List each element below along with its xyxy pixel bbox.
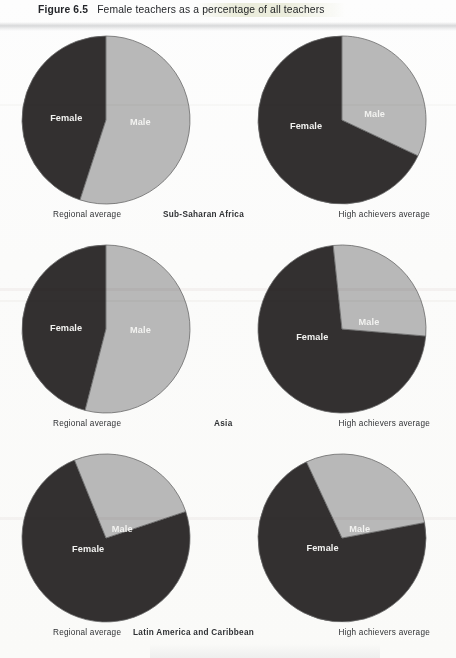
svg-text:Male: Male <box>349 524 370 534</box>
pie-chart-regional-average-0[interactable]: FemaleMale <box>14 34 194 206</box>
caption-high-achievers-average-1: High achievers average <box>338 419 430 428</box>
chart-row-latin-america-and-caribbean: FemaleMale FemaleMale Regional average L… <box>0 448 456 657</box>
svg-text:Male: Male <box>359 317 380 327</box>
svg-text:Female: Female <box>50 323 82 333</box>
svg-text:Female: Female <box>72 544 104 554</box>
svg-text:Male: Male <box>130 117 151 127</box>
svg-text:Female: Female <box>296 332 328 342</box>
caption-regional-average-0: Regional average <box>53 210 121 219</box>
chart-row-sub-saharan-africa: FemaleMale FemaleMale Regional average S… <box>0 30 456 239</box>
pie-svg-2: FemaleMale <box>20 243 192 415</box>
figure-header: Figure 6.5Female teachers as a percentag… <box>0 0 456 30</box>
caption-regional-average-2: Regional average <box>53 628 121 637</box>
chart-row-asia: FemaleMale FemaleMale Regional average A… <box>0 239 456 448</box>
caption-row-2: Regional average Latin America and Carib… <box>0 628 456 644</box>
caption-region-name-0: Sub-Saharan Africa <box>163 210 244 219</box>
svg-text:Female: Female <box>50 113 82 123</box>
pie-chart-high-achievers-average-5[interactable]: FemaleMale <box>252 452 432 624</box>
svg-text:Male: Male <box>364 109 385 119</box>
pie-chart-grid: FemaleMale FemaleMale Regional average S… <box>0 30 456 658</box>
caption-row-1: Regional average Asia High achievers ave… <box>0 419 456 435</box>
pie-svg-1: FemaleMale <box>256 34 428 206</box>
svg-text:Male: Male <box>112 524 133 534</box>
pie-svg-5: FemaleMale <box>256 452 428 624</box>
caption-region-name-1: Asia <box>214 419 233 428</box>
pie-svg-4: FemaleMale <box>20 452 192 624</box>
caption-regional-average-1: Regional average <box>53 419 121 428</box>
svg-text:Female: Female <box>306 543 338 553</box>
pie-chart-regional-average-4[interactable]: FemaleMale <box>14 452 194 624</box>
pie-chart-regional-average-2[interactable]: FemaleMale <box>14 243 194 415</box>
figure-number: Figure 6.5 <box>38 4 88 15</box>
pie-svg-3: FemaleMale <box>256 243 428 415</box>
figure-title: Figure 6.5Female teachers as a percentag… <box>38 4 438 15</box>
svg-text:Male: Male <box>130 325 151 335</box>
caption-row-0: Regional average Sub-Saharan Africa High… <box>0 210 456 226</box>
caption-region-name-2: Latin America and Caribbean <box>133 628 254 637</box>
svg-text:Female: Female <box>290 121 322 131</box>
pie-chart-high-achievers-average-3[interactable]: FemaleMale <box>252 243 432 415</box>
pie-svg-0: FemaleMale <box>20 34 192 206</box>
figure-caption: Female teachers as a percentage of all t… <box>97 4 324 15</box>
caption-high-achievers-average-0: High achievers average <box>338 210 430 219</box>
pie-chart-high-achievers-average-1[interactable]: FemaleMale <box>252 34 432 206</box>
caption-high-achievers-average-2: High achievers average <box>338 628 430 637</box>
